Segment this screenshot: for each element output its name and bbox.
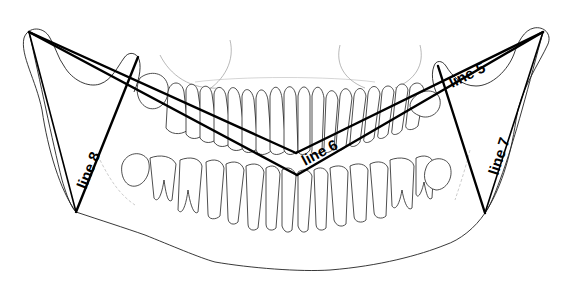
panoramic-diagram: line 5 line 6 line 7 line 8 — [0, 0, 568, 285]
lower-teeth — [122, 154, 451, 232]
line-8-label: line 8 — [73, 149, 103, 191]
line-7-posterior — [485, 32, 543, 213]
line-7 — [438, 66, 485, 213]
line-8-posterior — [29, 32, 76, 212]
line-5-left — [29, 32, 296, 153]
